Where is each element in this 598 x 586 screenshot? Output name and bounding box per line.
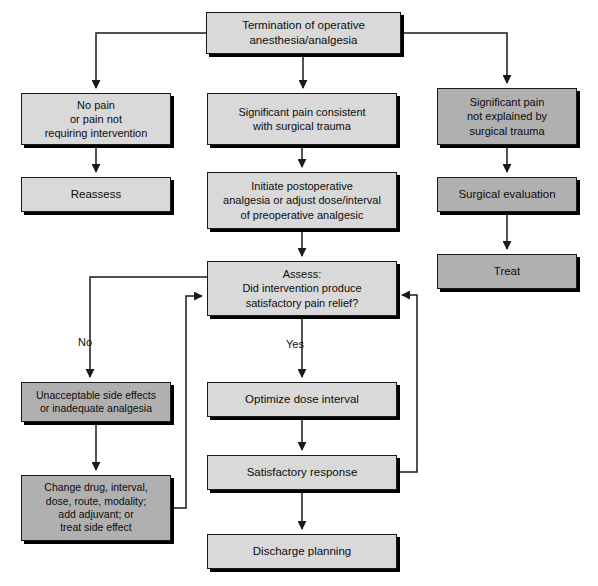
node-label-treat: Treat: [490, 264, 524, 279]
node-label-significant-pain-consistent: Significant pain consistent with surgica…: [234, 105, 369, 133]
edge-termination-to-no-pain: [96, 33, 206, 88]
node-reassess[interactable]: Reassess: [21, 177, 171, 212]
node-surgical-evaluation[interactable]: Surgical evaluation: [437, 177, 577, 212]
node-label-discharge-planning: Discharge planning: [249, 544, 355, 559]
node-label-unacceptable-side-effects: Unacceptable side effects or inadequate …: [32, 389, 160, 416]
node-initiate-postoperative[interactable]: Initiate postoperative analgesia or adju…: [207, 172, 397, 229]
node-discharge-planning[interactable]: Discharge planning: [207, 534, 397, 569]
node-unacceptable-side-effects[interactable]: Unacceptable side effects or inadequate …: [21, 382, 171, 422]
node-label-no-pain: No pain or pain not requiring interventi…: [41, 98, 152, 140]
node-assess[interactable]: Assess: Did intervention produce satisfa…: [207, 261, 397, 316]
node-label-reassess: Reassess: [67, 187, 126, 202]
node-label-optimize-dose-interval: Optimize dose interval: [241, 392, 363, 407]
node-significant-pain-consistent[interactable]: Significant pain consistent with surgica…: [207, 93, 397, 145]
edge-assess-no-branch: [90, 277, 207, 377]
node-treat[interactable]: Treat: [437, 254, 577, 289]
flowchart-canvas: Termination of operative anesthesia/anal…: [0, 0, 598, 586]
edge-label-no-label: No: [78, 336, 92, 348]
node-change-drug[interactable]: Change drug, interval, dose, route, moda…: [21, 475, 171, 541]
node-label-change-drug: Change drug, interval, dose, route, moda…: [40, 481, 151, 535]
node-label-satisfactory-response: Satisfactory response: [243, 465, 362, 480]
node-optimize-dose-interval[interactable]: Optimize dose interval: [207, 382, 397, 417]
node-label-assess: Assess: Did intervention produce satisfa…: [238, 267, 365, 309]
edge-termination-to-unexplained: [401, 33, 507, 83]
node-no-pain[interactable]: No pain or pain not requiring interventi…: [21, 93, 171, 145]
node-termination[interactable]: Termination of operative anesthesia/anal…: [206, 12, 401, 54]
node-label-initiate-postoperative: Initiate postoperative analgesia or adju…: [219, 179, 385, 221]
edge-label-yes-label: Yes: [286, 338, 304, 350]
node-label-surgical-evaluation: Surgical evaluation: [454, 187, 559, 202]
node-satisfactory-response[interactable]: Satisfactory response: [207, 455, 397, 490]
edge-satisfactory-loop-to-assess: [397, 295, 417, 472]
node-label-termination: Termination of operative anesthesia/anal…: [238, 18, 369, 47]
edge-change-drug-loop-to-assess: [171, 296, 202, 508]
node-significant-pain-unexplained[interactable]: Significant pain not explained by surgic…: [437, 88, 577, 145]
node-label-significant-pain-unexplained: Significant pain not explained by surgic…: [463, 95, 551, 137]
